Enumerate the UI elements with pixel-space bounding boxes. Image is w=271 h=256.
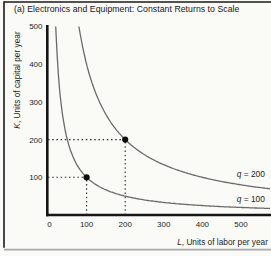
y-tick-label: 300 (29, 98, 43, 107)
y-tick-label: 100 (29, 173, 43, 182)
x-tick-label: 200 (119, 220, 133, 229)
y-tick-label: 400 (29, 60, 43, 69)
x-tick-label: 400 (196, 220, 210, 229)
isoquant-curve-q100 (56, 27, 270, 209)
x-tick-label: 300 (157, 220, 171, 229)
isoquant-chart: 0100200300400500100200300400500K, Units … (0, 0, 271, 256)
x-tick-label: 0 (47, 220, 52, 229)
y-tick-label: 500 (29, 22, 43, 31)
label-text: = 200 (241, 169, 265, 179)
figure-panel: 0100200300400500100200300400500K, Units … (0, 0, 271, 256)
curve-label-q200: q = 200 (237, 169, 266, 179)
figure-title: (a) Electronics and Equipment: Constant … (14, 4, 239, 14)
x-tick-label: 500 (234, 220, 248, 229)
x-tick-label: 100 (80, 220, 94, 229)
x-axis-title: L, Units of labor per year (177, 237, 268, 247)
isoquant-curve-q200 (79, 27, 270, 189)
data-point-200-200 (122, 137, 128, 143)
data-point-100-100 (84, 174, 90, 180)
label-text: = 100 (241, 194, 265, 204)
y-tick-label: 200 (29, 136, 43, 145)
y-axis-title: K, Units of capital per year (12, 31, 22, 129)
label-text: , Units of labor per year (182, 237, 268, 247)
label-text: , Units of capital per year (12, 31, 22, 123)
curve-label-q100: q = 100 (237, 194, 266, 204)
